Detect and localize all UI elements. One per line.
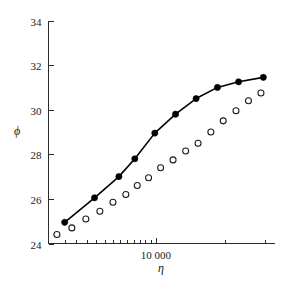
data-point-open <box>54 232 60 238</box>
data-point-filled <box>260 74 266 80</box>
data-point-open <box>208 129 214 135</box>
y-axis-ticks <box>49 22 54 245</box>
data-point-filled <box>132 156 138 162</box>
data-point-open <box>245 98 251 104</box>
chart-plot-area: 242628303234 10 000 ϕ η <box>0 0 286 285</box>
y-axis-tick-labels: 242628303234 <box>31 16 43 251</box>
x-axis-ticks <box>66 238 266 244</box>
data-point-filled <box>236 79 242 85</box>
y-tick-label: 26 <box>31 194 43 206</box>
data-point-open <box>233 108 239 114</box>
data-point-open <box>146 175 152 181</box>
data-point-filled <box>91 195 97 201</box>
data-point-open <box>158 165 164 171</box>
data-point-filled <box>116 174 122 180</box>
data-point-filled <box>152 130 158 136</box>
data-point-open <box>258 90 264 96</box>
data-point-open <box>123 191 129 197</box>
data-point-open <box>220 118 226 124</box>
y-tick-label: 28 <box>31 149 43 161</box>
data-point-open <box>134 183 140 189</box>
data-point-open <box>183 148 189 154</box>
data-point-open <box>170 157 176 163</box>
y-axis-title: ϕ <box>14 124 20 138</box>
series-open-circles <box>54 90 264 238</box>
y-tick-label: 24 <box>31 239 43 251</box>
data-point-open <box>97 208 103 214</box>
data-point-open <box>195 140 201 146</box>
data-point-open <box>69 225 75 231</box>
data-point-open <box>83 216 89 222</box>
data-point-filled <box>172 111 178 117</box>
x-tick-label: 10 000 <box>141 249 172 261</box>
y-tick-label: 34 <box>31 16 43 28</box>
series-filled-circles <box>62 74 267 225</box>
x-axis-tick-labels: 10 000 <box>141 249 172 261</box>
axis-lines <box>49 21 275 244</box>
y-tick-label: 30 <box>31 105 43 117</box>
y-tick-label: 32 <box>31 60 42 72</box>
chart-figure: · · · · · · · · · · · · 242628303234 10 … <box>0 0 286 285</box>
data-point-filled <box>62 219 68 225</box>
data-point-filled <box>193 95 199 101</box>
data-point-filled <box>214 84 220 90</box>
x-axis-title: η <box>158 261 164 275</box>
data-point-open <box>110 199 116 205</box>
